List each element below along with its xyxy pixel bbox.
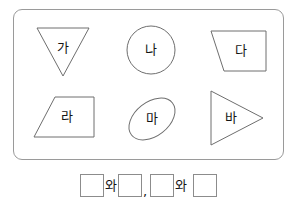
shape-item-triangle-down: 가 [36,27,90,77]
shape-item-ellipse-tilted: 마 [124,94,180,144]
shape-worksheet: 가 나 다 라 마 [0,0,297,207]
answer-blank-4[interactable] [193,174,217,197]
shape-label-a: 가 [36,41,90,54]
answer-blank-3[interactable] [150,174,174,197]
shape-label-c: 다 [220,44,262,57]
shape-panel: 가 나 다 라 마 [13,9,284,160]
answer-conjunction-1: 와 [104,179,118,192]
answer-row: 와 , 와 [0,168,297,202]
answer-blank-1[interactable] [80,174,104,197]
shape-label-f: 바 [210,111,252,124]
answer-separator: , [142,185,150,198]
shape-label-d: 라 [47,110,87,123]
answer-conjunction-2: 와 [174,179,188,192]
shape-label-b: 나 [126,43,176,56]
shape-item-trapezoid-left: 라 [33,96,95,138]
answer-blank-2[interactable] [118,174,142,197]
shape-item-circle: 나 [126,25,176,75]
shape-item-triangle-right: 바 [210,90,264,146]
shape-label-e: 마 [124,112,180,125]
shape-item-trapezoid-right: 다 [210,30,267,72]
